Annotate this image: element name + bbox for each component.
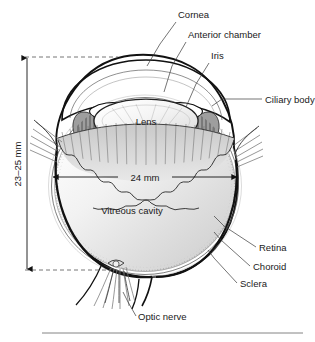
anterior-chamber-leader bbox=[164, 42, 186, 92]
sclera-label: Sclera bbox=[240, 278, 268, 289]
anterior-chamber-label: Anterior chamber bbox=[188, 29, 261, 40]
optic-nerve-sheath-right-outer bbox=[142, 277, 152, 306]
muscle-sheath-left bbox=[34, 120, 58, 150]
ciliary-body-label: Ciliary body bbox=[265, 94, 315, 105]
optic-nerve-label: Optic nerve bbox=[138, 311, 187, 322]
choroid-leader bbox=[214, 232, 250, 266]
height-dimension-label: 23–25 mm bbox=[12, 141, 23, 186]
eye-anatomy-figure: 23–25 mm 24 mm Lens Vitreous cavity Corn… bbox=[0, 0, 315, 342]
optic-disc-center bbox=[113, 261, 119, 267]
vitreous-cavity-label: Vitreous cavity bbox=[101, 205, 163, 216]
muscle-sheath-right bbox=[235, 126, 259, 154]
sclera-leader bbox=[208, 250, 237, 283]
cornea-label: Cornea bbox=[178, 9, 210, 20]
ciliary-body-leader bbox=[212, 99, 262, 106]
eye-cross-section-illustration: 23–25 mm 24 mm Lens Vitreous cavity Corn… bbox=[0, 0, 315, 342]
lens-label: Lens bbox=[136, 116, 157, 127]
iris-label: Iris bbox=[211, 50, 224, 61]
width-dimension-label: 24 mm bbox=[130, 172, 159, 183]
choroid-label: Choroid bbox=[253, 261, 286, 272]
retina-label: Retina bbox=[259, 242, 287, 253]
